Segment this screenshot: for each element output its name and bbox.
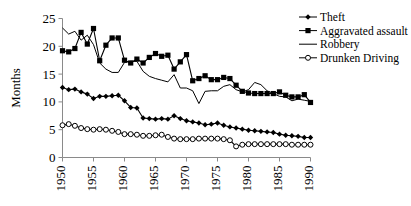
marker-circle — [203, 136, 208, 141]
marker-diamond — [289, 133, 294, 138]
marker-circle — [296, 142, 301, 147]
marker-square — [147, 55, 152, 60]
marker-circle — [302, 142, 307, 147]
marker-diamond — [109, 93, 114, 98]
marker-diamond — [258, 129, 263, 134]
marker-square — [252, 91, 257, 96]
marker-circle — [97, 127, 102, 132]
marker-diamond — [78, 89, 83, 94]
x-tick-label-group: 1955 — [84, 166, 99, 192]
axis-labels: 0510152025195019551960196519701975198019… — [8, 11, 316, 192]
marker-square — [141, 60, 146, 65]
marker-square — [246, 90, 251, 95]
marker-square — [66, 49, 71, 54]
marker-circle — [246, 142, 251, 147]
marker-square — [289, 94, 294, 99]
x-tick-label-group: 1990 — [301, 166, 316, 192]
x-tick-label-group: 1985 — [270, 166, 285, 192]
marker-diamond — [196, 120, 201, 125]
x-tick-label: 1965 — [146, 166, 161, 192]
marker-circle — [190, 137, 195, 142]
marker-square — [110, 35, 115, 40]
chart-container: TheftAggravated assaultRobberyDrunken Dr… — [0, 0, 411, 206]
marker-diamond — [215, 120, 220, 125]
marker-circle — [165, 134, 170, 139]
marker-circle — [91, 127, 96, 132]
marker-square — [196, 76, 201, 81]
marker-square — [79, 30, 84, 35]
x-tick-label: 1970 — [177, 166, 192, 192]
marker-diamond — [277, 131, 282, 136]
marker-square — [184, 52, 189, 57]
marker-diamond — [140, 115, 145, 120]
marker-square — [103, 43, 108, 48]
x-tick-label-group: 1960 — [115, 166, 130, 192]
marker-circle — [134, 132, 139, 137]
y-axis-title-group: Months — [8, 68, 23, 108]
marker-circle — [66, 122, 71, 127]
marker-circle — [221, 137, 226, 142]
marker-square — [85, 41, 90, 46]
marker-diamond — [66, 87, 71, 92]
legend-item-theft: Theft — [299, 11, 346, 23]
marker-square — [277, 89, 282, 94]
x-tick-label: 1990 — [301, 166, 316, 192]
marker-square — [159, 54, 164, 59]
marker-circle — [240, 142, 245, 147]
x-tick-label-group: 1975 — [208, 166, 223, 192]
legend-label: Drunken Driving — [320, 52, 399, 65]
marker-circle — [209, 136, 214, 141]
marker-square — [178, 59, 183, 64]
marker-diamond — [233, 125, 238, 130]
marker-diamond — [302, 135, 307, 140]
marker-diamond — [97, 94, 102, 99]
marker-diamond — [134, 105, 139, 110]
marker-diamond — [246, 128, 251, 133]
y-tick-label: 0 — [49, 150, 56, 165]
x-tick-label: 1960 — [115, 166, 130, 192]
marker-circle — [172, 136, 177, 141]
chart-legend: TheftAggravated assaultRobberyDrunken Dr… — [299, 11, 409, 65]
marker-circle — [159, 132, 164, 137]
marker-diamond — [283, 133, 288, 138]
marker-square — [221, 75, 226, 80]
legend-item-aggravated-assault: Aggravated assault — [299, 25, 409, 38]
marker-diamond — [184, 118, 189, 123]
marker-square — [116, 35, 121, 40]
marker-circle — [227, 138, 232, 143]
marker-diamond — [159, 116, 164, 121]
x-tick-label-group: 1980 — [239, 166, 254, 192]
marker-circle — [234, 144, 239, 149]
series-aggravated-assault — [60, 26, 313, 105]
marker-square — [172, 66, 177, 71]
marker-square — [153, 51, 158, 56]
marker-circle — [79, 126, 84, 131]
marker-diamond — [295, 134, 300, 139]
marker-square — [190, 78, 195, 83]
marker-square — [302, 92, 307, 97]
x-tick-label: 1955 — [84, 166, 99, 192]
marker-square — [215, 77, 220, 82]
y-tick-label: 25 — [43, 11, 56, 26]
legend-label: Theft — [320, 11, 346, 23]
marker-diamond — [308, 135, 313, 140]
y-tick-label: 5 — [49, 122, 56, 137]
marker-diamond — [72, 86, 77, 91]
marker-square — [209, 77, 214, 82]
marker-circle — [289, 142, 294, 147]
legend-item-drunken-driving: Drunken Driving — [299, 52, 399, 65]
marker-diamond — [202, 122, 207, 127]
marker-diamond — [147, 116, 152, 121]
marker-diamond — [103, 94, 108, 99]
marker-square — [258, 91, 263, 96]
y-tick-label: 15 — [43, 67, 56, 82]
x-tick-label-group: 1950 — [53, 166, 68, 192]
marker-circle — [265, 142, 270, 147]
marker-circle — [306, 55, 311, 60]
marker-circle — [258, 142, 263, 147]
marker-circle — [196, 136, 201, 141]
marker-diamond — [60, 85, 65, 90]
series-drunken-driving — [60, 122, 313, 149]
marker-diamond — [171, 113, 176, 118]
x-tick-label: 1975 — [208, 166, 223, 192]
